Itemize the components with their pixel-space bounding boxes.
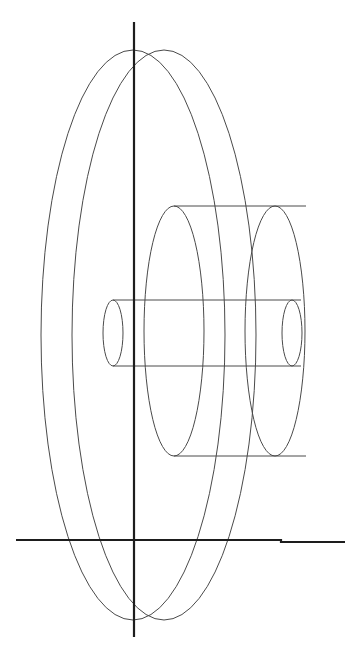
- shaft-front-face-ellipse: [103, 300, 123, 366]
- hub-front-face-ellipse: [144, 206, 204, 456]
- flange-back-face-ellipse: [72, 50, 256, 620]
- flange-disc-group: [41, 50, 256, 620]
- reference-axes-group: [16, 22, 345, 637]
- hub-back-face-ellipse: [245, 206, 305, 456]
- shaft-back-face-ellipse: [282, 300, 302, 366]
- wireframe-svg: [0, 0, 354, 659]
- technical-drawing-canvas: [0, 0, 354, 659]
- shaft-cylinder-group: [103, 300, 302, 366]
- horizontal-centerline-axis: [16, 540, 345, 542]
